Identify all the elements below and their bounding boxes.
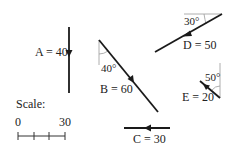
vector-b-angle-label: 40° [101, 62, 116, 74]
vector-b-angle-arc [99, 51, 108, 54]
vector-e-angle-label: 50° [205, 71, 220, 83]
vector-b-line [99, 40, 158, 112]
scale-bar: Scale: 0 30 [15, 97, 71, 140]
vector-c: C = 30 [124, 125, 170, 147]
vector-a: A = 40 [35, 27, 73, 93]
vector-diagram: A = 40 40° B = 60 C = 30 30° D = 50 50° … [0, 0, 237, 153]
vector-c-label: C = 30 [133, 132, 166, 146]
vector-b-label: B = 60 [100, 82, 133, 96]
vector-e-label: E = 20 [182, 90, 214, 104]
vector-d-label: D = 50 [183, 38, 216, 52]
vector-a-label: A = 40 [35, 45, 68, 59]
vector-e: 50° E = 20 [182, 63, 220, 104]
vector-c-arrowhead-icon [144, 125, 151, 132]
scale-start-label: 0 [15, 115, 21, 129]
scale-title: Scale: [16, 97, 45, 111]
scale-end-label: 30 [59, 115, 71, 129]
vector-b: 40° B = 60 [99, 40, 158, 112]
vector-d-angle-label: 30° [184, 15, 199, 27]
vector-d: 30° D = 50 [155, 14, 222, 52]
